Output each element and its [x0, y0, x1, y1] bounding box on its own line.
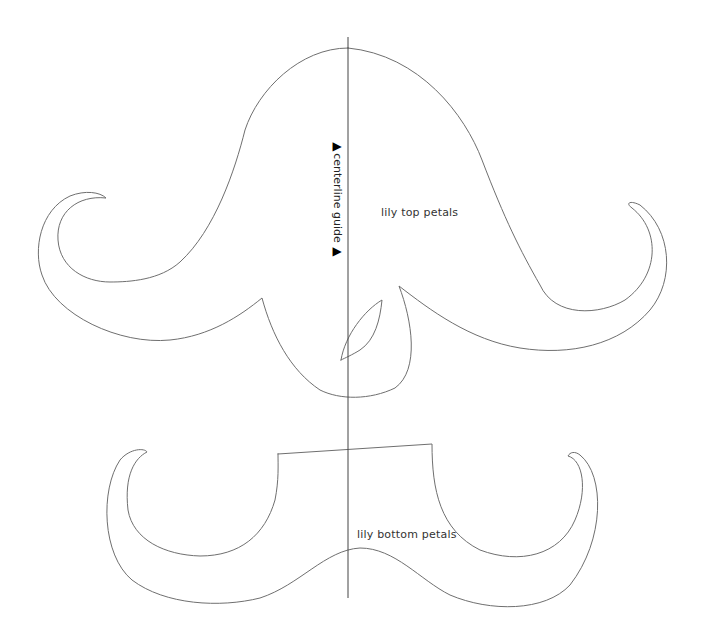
- leaf-notch-outline: [341, 300, 382, 360]
- centerline-guide-label: ▶ centerline guide ▶: [331, 141, 344, 255]
- top-petals-outline: [38, 48, 666, 397]
- pattern-canvas: [0, 0, 704, 642]
- bottom-petals-outline: [107, 444, 598, 607]
- arrow-end-icon: ▶: [333, 244, 342, 256]
- centerline-guide-text: centerline guide: [331, 153, 344, 243]
- arrow-start-icon: ▶: [333, 140, 342, 152]
- bottom-petals-label: lily bottom petals: [357, 528, 457, 541]
- top-petals-label: lily top petals: [381, 206, 458, 219]
